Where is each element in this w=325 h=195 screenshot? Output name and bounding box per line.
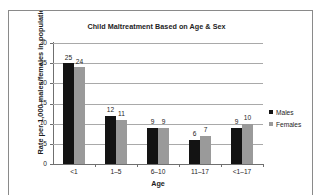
bar-males-3 bbox=[189, 140, 200, 164]
bar-males-4 bbox=[231, 128, 242, 164]
x-axis-title: Age bbox=[53, 179, 263, 188]
x-tick-mark bbox=[221, 164, 222, 167]
bar-females-3 bbox=[200, 136, 211, 164]
y-tick-label: 15 bbox=[31, 100, 47, 107]
y-tick-label: 5 bbox=[31, 141, 47, 148]
x-axis-line bbox=[53, 164, 264, 165]
x-tick-mark bbox=[263, 164, 264, 167]
bar-value-label: 10 bbox=[238, 115, 258, 122]
bar-females-0 bbox=[74, 67, 85, 164]
bar-females-2 bbox=[158, 128, 169, 164]
y-tick-mark bbox=[50, 164, 53, 165]
x-axis-category-label: <1 bbox=[54, 168, 94, 175]
chart-legend: MalesFemales bbox=[269, 107, 313, 131]
bar-females-1 bbox=[116, 120, 127, 164]
bar-males-1 bbox=[105, 116, 116, 164]
x-tick-mark bbox=[179, 164, 180, 167]
y-tick-label: 10 bbox=[31, 120, 47, 127]
chart-title: Child Maltreatment Based on Age & Sex bbox=[49, 22, 264, 31]
legend-swatch-icon bbox=[269, 122, 273, 126]
y-tick-label: 25 bbox=[31, 60, 47, 67]
bar-males-2 bbox=[147, 128, 158, 164]
bar-value-label: 11 bbox=[112, 111, 132, 118]
bar-females-4 bbox=[242, 124, 253, 164]
x-axis-category-label: 1–5 bbox=[96, 168, 136, 175]
bar-value-label: 9 bbox=[154, 119, 174, 126]
x-tick-mark bbox=[95, 164, 96, 167]
legend-item-males: Males bbox=[269, 107, 313, 117]
legend-swatch-icon bbox=[269, 110, 273, 114]
x-tick-mark bbox=[137, 164, 138, 167]
figure-frame: Child Maltreatment Based on Age & Sex Ra… bbox=[8, 10, 313, 195]
bar-value-label: 7 bbox=[196, 127, 216, 134]
x-axis-category-label: 11–17 bbox=[180, 168, 220, 175]
y-tick-label: 0 bbox=[31, 161, 47, 168]
legend-label: Females bbox=[276, 121, 301, 128]
legend-label: Males bbox=[276, 109, 294, 116]
legend-item-females: Females bbox=[269, 119, 313, 129]
x-axis-category-label: <1–17 bbox=[222, 168, 262, 175]
y-tick-label: 20 bbox=[31, 80, 47, 87]
bar-males-0 bbox=[63, 63, 74, 164]
x-axis-category-label: 6–10 bbox=[138, 168, 178, 175]
bar-value-label: 24 bbox=[70, 59, 90, 66]
y-tick-label: 30 bbox=[31, 40, 47, 47]
